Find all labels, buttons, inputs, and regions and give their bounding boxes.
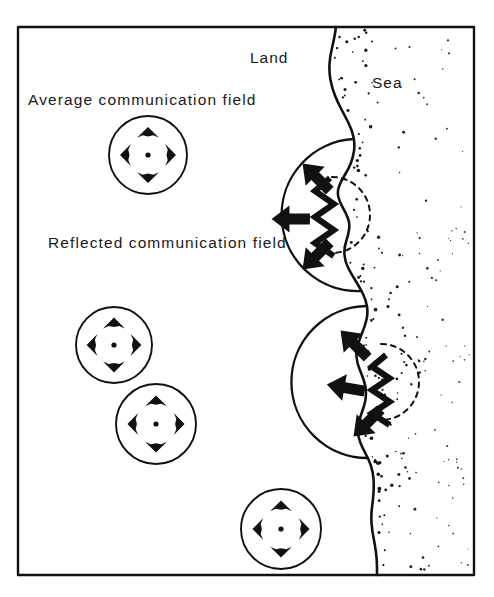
field-center-dot [145, 152, 150, 157]
figure-root: Land Sea Average communication field Ref… [0, 0, 494, 597]
average-communication-field [241, 489, 321, 569]
label-sea: Sea [372, 74, 403, 91]
average-communication-field [116, 384, 196, 464]
label-reflected-communication-field: Reflected communication field [48, 234, 287, 251]
field-center-dot [278, 526, 283, 531]
label-average-communication-field: Average communication field [28, 91, 256, 108]
label-land: Land [250, 49, 288, 66]
average-communication-field [109, 116, 187, 194]
average-communication-field [76, 307, 152, 383]
field-center-dot [111, 342, 116, 347]
field-center-dot [153, 421, 158, 426]
diagram-canvas: Land Sea Average communication field Ref… [0, 0, 494, 597]
